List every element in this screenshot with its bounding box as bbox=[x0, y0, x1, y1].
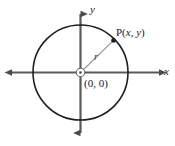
point-p-prefix: P( bbox=[116, 26, 126, 38]
y-axis-label: y bbox=[90, 4, 95, 15]
radius-label: r bbox=[94, 52, 98, 62]
origin-marker-dot bbox=[79, 71, 82, 74]
x-axis-label: x bbox=[164, 66, 169, 77]
origin-label: (0, 0) bbox=[84, 78, 108, 89]
point-p-marker bbox=[111, 38, 116, 43]
point-p-suffix: ) bbox=[141, 26, 145, 38]
point-p-label: P(x, y) bbox=[116, 27, 145, 38]
figure-canvas bbox=[0, 0, 175, 146]
coordinate-circle-figure: y x P(x, y) r (0, 0) bbox=[0, 0, 175, 146]
